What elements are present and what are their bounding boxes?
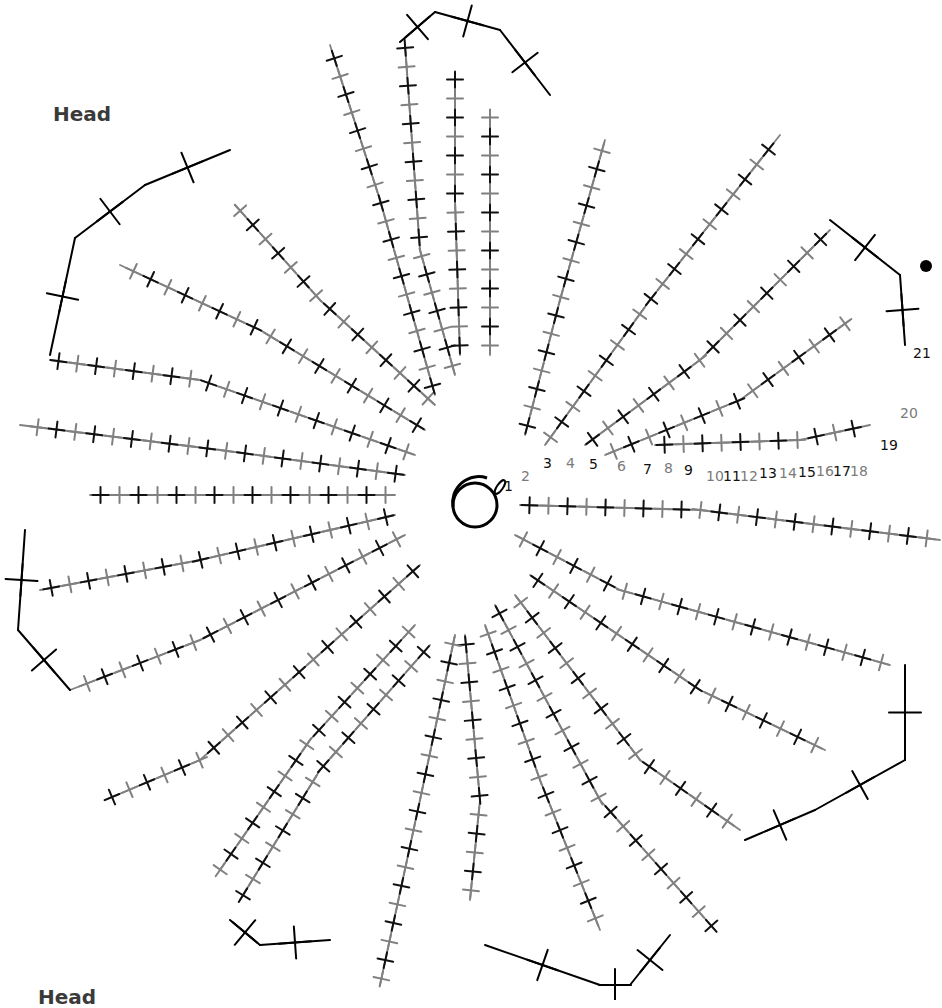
row-number-6: 6	[617, 458, 626, 474]
row-number-8: 8	[664, 460, 673, 476]
row-number-4: 4	[566, 455, 575, 471]
row-number-15: 15	[798, 464, 816, 480]
row-number-7: 7	[643, 461, 652, 477]
row-number-11: 11	[723, 468, 741, 484]
row-number-3: 3	[543, 455, 552, 471]
row-number-12: 12	[740, 468, 758, 484]
row-number-18: 18	[850, 463, 868, 479]
row-number-21: 21	[913, 345, 931, 361]
row-number-2: 2	[521, 468, 530, 484]
row-number-9: 9	[684, 462, 693, 478]
row-number-20: 20	[900, 405, 918, 421]
row-number-10: 10	[706, 468, 724, 484]
row-number-13: 13	[759, 465, 777, 481]
row-number-1: 1	[504, 478, 513, 494]
row-number-14: 14	[779, 465, 797, 481]
row-number-16: 16	[816, 463, 834, 479]
start-marker-dot	[920, 260, 932, 272]
row-number-5: 5	[589, 456, 598, 472]
row-number-19: 19	[880, 437, 898, 453]
row-number-17: 17	[833, 463, 851, 479]
